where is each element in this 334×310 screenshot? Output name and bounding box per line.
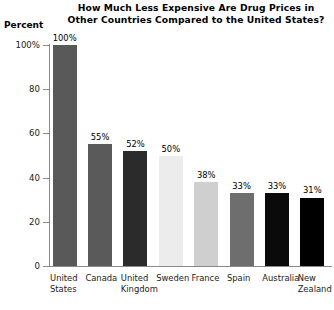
y-tick-label: 100% <box>0 41 40 50</box>
bar <box>194 182 218 266</box>
y-tick-label: 80 <box>0 85 40 94</box>
x-tick-label-line-1: United <box>50 273 78 283</box>
x-tick-label: Spain <box>227 273 250 284</box>
x-tick-label-line-1: United <box>121 273 149 283</box>
bar <box>265 193 289 266</box>
y-tick-label: 0 <box>0 262 40 271</box>
bar-value-label: 31% <box>294 186 330 194</box>
x-tick-label-line-2: Kingdom <box>121 284 158 295</box>
bar <box>88 144 112 266</box>
bar-value-label: 33% <box>224 182 260 190</box>
x-tick-label-line-1: New <box>298 273 316 283</box>
bar <box>53 45 77 266</box>
y-tick-label: 20 <box>0 218 40 227</box>
x-tick-label: Canada <box>85 273 117 284</box>
x-tick-label-line-1: Canada <box>85 273 117 283</box>
bar-value-label: 38% <box>188 171 224 179</box>
bar-value-label: 52% <box>117 140 153 148</box>
bar-value-label: 50% <box>153 145 189 153</box>
x-tick-label-line-1: Sweden <box>156 273 189 283</box>
x-tick-label: Sweden <box>156 273 189 284</box>
x-tick-label-line-1: France <box>192 273 220 283</box>
chart-title-line-2: Other Countries Compared to the United S… <box>62 14 330 26</box>
chart-title: How Much Less Expensive Are Drug Prices … <box>62 2 330 25</box>
bar <box>159 156 183 267</box>
chart-title-line-1: How Much Less Expensive Are Drug Prices … <box>62 2 330 14</box>
x-tick-label-line-2: Zealand <box>298 284 332 295</box>
x-tick-label: NewZealand <box>298 273 332 294</box>
bar-value-label: 100% <box>47 34 83 42</box>
y-axis-title: Percent <box>4 20 43 30</box>
plot-area: 100%55%52%50%38%33%33%31% <box>49 45 332 266</box>
bar-value-label: 55% <box>82 133 118 141</box>
x-tick-label: UnitedStates <box>50 273 78 294</box>
x-tick-label-line-2: States <box>50 284 78 295</box>
x-tick-label-line-1: Spain <box>227 273 250 283</box>
x-tick-label: UnitedKingdom <box>121 273 158 294</box>
x-tick-label: France <box>192 273 220 284</box>
bar-value-label: 33% <box>259 182 295 190</box>
bar <box>300 198 324 267</box>
x-axis-line <box>49 266 332 267</box>
bar <box>230 193 254 266</box>
bar-chart: How Much Less Expensive Are Drug Prices … <box>0 0 334 310</box>
bar <box>123 151 147 266</box>
x-tick-label: Australia <box>262 273 299 284</box>
y-tick-label: 60 <box>0 129 40 138</box>
y-tick-mark <box>43 266 49 267</box>
y-tick-label: 40 <box>0 174 40 183</box>
x-tick-label-line-1: Australia <box>262 273 299 283</box>
